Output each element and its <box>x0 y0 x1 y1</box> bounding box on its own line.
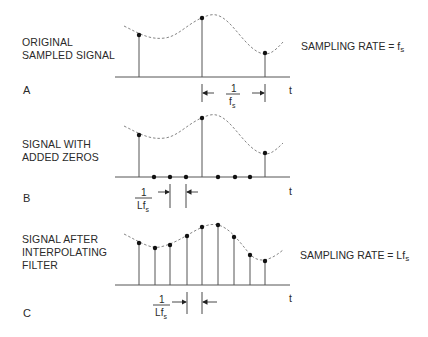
panel-b-continuous-curve <box>124 115 283 154</box>
panel-b-samples <box>139 118 265 177</box>
panel-a-interval-denominator: fs <box>229 95 236 112</box>
sampling-diagram <box>0 0 428 337</box>
panel-c-interval-numerator: 1 <box>159 293 165 306</box>
panel-c-samples <box>139 225 265 285</box>
panel-a-plot <box>115 15 290 102</box>
panel-c-continuous-curve <box>124 224 283 260</box>
panel-c-axis-label-t: t <box>289 292 292 305</box>
panel-a-continuous-curve <box>124 15 283 54</box>
panel-c-plot <box>115 223 290 314</box>
panel-b-interval-denominator: Lfs <box>137 199 149 216</box>
panel-a-interval-numerator: 1 <box>231 82 237 95</box>
panel-a-samples <box>139 18 265 77</box>
panel-a-axis-label-t: t <box>289 84 292 97</box>
panel-b-interval-numerator: 1 <box>141 186 147 199</box>
panel-c-interval-denominator: Lfs <box>155 306 167 323</box>
panel-b-axis-label-t: t <box>289 185 292 198</box>
